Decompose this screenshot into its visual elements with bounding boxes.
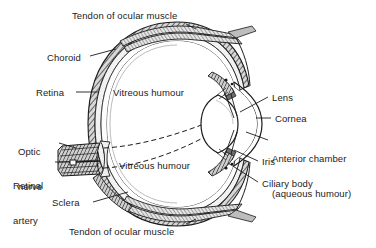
label-sclera: Sclera <box>52 197 80 209</box>
label-ciliary-body: Ciliary body <box>262 178 313 190</box>
label-retinal-artery-line2: artery <box>13 215 43 227</box>
label-retinal-artery-line1: Retinal <box>13 180 43 192</box>
label-lens: Lens <box>272 92 293 104</box>
label-retina: Retina <box>36 87 64 99</box>
label-tendon-bottom: Tendon of ocular muscle <box>69 226 174 238</box>
label-anterior-chamber-line1: Anterior chamber <box>272 153 351 165</box>
label-vitreous-humour-lower: Vitreous humour <box>119 160 190 172</box>
retinal-artery-marker <box>70 160 76 165</box>
label-tendon-top: Tendon of ocular muscle <box>72 10 177 22</box>
label-vitreous-humour-upper: Vitreous humour <box>113 87 184 99</box>
label-anterior-chamber: Anterior chamber (aqueous humour) <box>272 130 351 222</box>
label-optic-nerve-line1: Optic <box>18 146 42 158</box>
label-retinal-artery: Retinal artery <box>13 157 43 248</box>
label-choroid: Choroid <box>47 52 81 64</box>
eye-anatomy-figure: Tendon of ocular muscle Choroid Retina O… <box>0 0 376 248</box>
label-cornea: Cornea <box>275 113 307 125</box>
label-iris: Iris <box>262 156 275 168</box>
retinal-artery-vessel <box>76 161 100 162</box>
